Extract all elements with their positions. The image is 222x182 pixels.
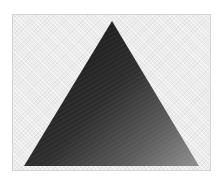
triangle-shape (0, 0, 222, 182)
image-canvas (0, 0, 222, 182)
caption-text (40, 174, 180, 180)
